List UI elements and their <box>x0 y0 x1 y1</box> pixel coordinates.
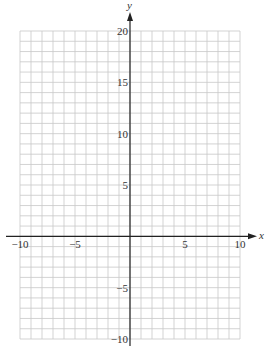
x-tick-label: 5 <box>182 238 188 250</box>
x-tick-label: −5 <box>69 238 81 250</box>
y-axis-label: y <box>126 0 132 11</box>
y-tick-label: −5 <box>116 282 128 294</box>
y-axis-arrow-icon <box>127 12 133 21</box>
y-tick-label: 5 <box>123 179 129 191</box>
y-tick-label: 20 <box>117 25 129 37</box>
y-tick-label: −10 <box>111 333 129 345</box>
graph-grid: xy−10−55102015105−5−10 <box>0 0 268 357</box>
x-axis-arrow-icon <box>248 233 257 239</box>
y-tick-label: 15 <box>117 76 129 88</box>
x-tick-label: −10 <box>11 238 29 250</box>
coordinate-plane: xy−10−55102015105−5−10 <box>0 0 268 357</box>
x-tick-label: 10 <box>235 238 247 250</box>
y-tick-label: 10 <box>117 128 129 140</box>
x-axis-label: x <box>258 229 264 241</box>
